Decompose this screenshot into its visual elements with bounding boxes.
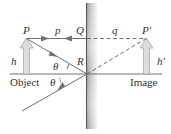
caption-image: Image	[130, 76, 158, 88]
label-image-point: P'	[141, 24, 152, 36]
angle-arc-incident	[67, 64, 69, 69]
label-angle-reflected: θ	[50, 76, 56, 88]
reflected-ray-arrowhead	[57, 82, 65, 91]
p-arrowhead-right	[64, 36, 72, 42]
mirror-diagram: P p Q q P' h h' R θ θ Object Image	[0, 0, 171, 134]
label-mirror-point-q: Q	[76, 24, 84, 36]
label-angle-incident: θ	[53, 60, 59, 72]
caption-object: Object	[10, 76, 39, 88]
label-object-height: h	[11, 55, 17, 67]
angle-arc-reflected	[60, 78, 62, 83]
label-object-point: P	[22, 24, 30, 36]
p-arrowhead-left	[41, 36, 49, 42]
label-image-distance: q	[112, 24, 118, 36]
plane-mirror	[86, 3, 97, 129]
object-arrow	[20, 38, 33, 74]
label-object-distance: p	[54, 24, 61, 36]
label-image-height: h'	[157, 55, 166, 67]
label-incidence-point-r: R	[76, 55, 84, 67]
image-arrow	[140, 38, 153, 74]
